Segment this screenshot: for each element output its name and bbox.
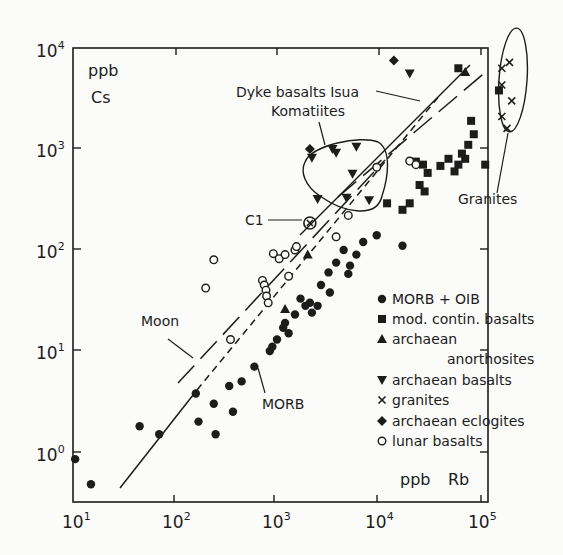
c1-label: C1 [245, 212, 264, 228]
legend-label: MORB + OIB [392, 291, 480, 307]
x-axis-unit: ppb [400, 470, 430, 489]
lunar-basalts-marker [264, 299, 272, 307]
lunar-basalts-marker [293, 243, 301, 251]
svg-text:102: 102 [162, 510, 191, 532]
mod-contin-basalts-marker [481, 161, 489, 169]
morb-oib-marker [296, 294, 304, 302]
legend-item: mod. contin. basalts [378, 311, 534, 327]
legend-item: archaean eclogites [377, 413, 525, 429]
svg-text:100: 100 [36, 443, 65, 465]
mod-contin-basalts-marker [399, 206, 407, 214]
legend-label: granites [392, 392, 449, 408]
legend-item: lunar basalts [378, 433, 482, 449]
archaean-anorthosites-marker [303, 250, 313, 259]
morb-oib-marker [135, 422, 143, 430]
legend-label: lunar basalts [392, 433, 482, 449]
morb-oib-marker [326, 288, 334, 296]
x-axis-element: Rb [448, 470, 469, 489]
mod-contin-basalts-marker [470, 130, 478, 138]
scatter-chart: 101 102 103 104 105 104 103 102 101 100 … [0, 0, 563, 555]
mod-contin-basalts-marker [467, 117, 475, 125]
lunar-basalts-marker [281, 251, 289, 259]
morb-oib-marker [291, 310, 299, 318]
svg-text:104: 104 [36, 39, 65, 61]
legend-marker-icon [377, 334, 387, 343]
morb-oib-marker [332, 258, 340, 266]
lunar-basalts-marker [285, 272, 293, 280]
morb-oib-marker [352, 250, 360, 258]
granites-marker [506, 59, 513, 66]
legend-marker-icon [377, 416, 387, 426]
lunar-basalts-marker [412, 161, 420, 169]
lunar-basalts-marker [332, 233, 340, 241]
lunar-basalts-marker [210, 256, 218, 264]
mod-contin-basalts-marker [421, 187, 429, 195]
morb-oib-marker [398, 242, 406, 250]
svg-text:104: 104 [365, 510, 394, 532]
legend-marker-icon [378, 295, 386, 303]
svg-text:103: 103 [262, 510, 291, 532]
morb-oib-marker [301, 302, 309, 310]
morb-oib-marker [225, 382, 233, 390]
lunar-basalts-marker [344, 212, 352, 220]
moon-label: Moon [141, 313, 179, 329]
mod-contin-basalts-marker [436, 162, 444, 170]
morb-oib-marker [237, 377, 245, 385]
mod-contin-basalts-marker [454, 64, 462, 72]
morb-oib-marker [359, 238, 367, 246]
leader-lines [168, 91, 508, 393]
svg-text:103: 103 [36, 139, 65, 161]
legend-label: archaean eclogites [392, 413, 525, 429]
svg-text:101: 101 [62, 510, 91, 532]
svg-text:101: 101 [36, 341, 65, 363]
archaean-eclogites-marker [389, 56, 399, 66]
legend-label: archaean [392, 331, 457, 347]
mod-contin-basalts-marker [461, 155, 469, 163]
archaean-basalts-marker [307, 154, 317, 163]
mod-contin-basalts-marker [383, 199, 391, 207]
legend-marker-icon [378, 315, 386, 323]
morb-oib-marker [317, 281, 325, 289]
morb-oib-marker [194, 417, 202, 425]
legend-item: MORB + OIB [378, 291, 480, 307]
moon-line [178, 160, 385, 383]
c1-marker [304, 217, 316, 229]
mod-contin-basalts-marker [454, 161, 462, 169]
morb-oib-marker [281, 319, 289, 327]
y-axis-element: Cs [91, 88, 111, 107]
legend-label: anorthosites [447, 351, 534, 367]
legend-marker-icon [379, 397, 386, 404]
legend-label: archaean basalts [392, 372, 512, 388]
granites-marker [508, 97, 515, 104]
morb-oib-marker [284, 329, 292, 337]
morb-label: MORB [262, 396, 304, 412]
morb-oib-marker [268, 343, 276, 351]
lunar-basalts-marker [202, 284, 210, 292]
archaean-basalts-marker [348, 170, 358, 179]
y-tick-labels: 104 103 102 101 100 [36, 39, 65, 465]
archaean-basalts-marker [313, 195, 323, 204]
morb-oib-marker [229, 408, 237, 416]
morb-oib-marker [250, 362, 258, 370]
archaean-basalts-marker [364, 196, 374, 205]
legend-marker-icon [378, 437, 386, 445]
archaean-anorthosites-marker [280, 304, 290, 313]
y-axis-unit: ppb [88, 61, 118, 80]
upper-dashed-line [338, 70, 488, 197]
morb-line-solid [120, 390, 197, 488]
granites-label: Granites [458, 191, 517, 207]
morb-oib-marker [71, 455, 79, 463]
morb-oib-marker [346, 261, 354, 269]
svg-text:102: 102 [36, 240, 65, 262]
legend: MORB + OIBmod. contin. basaltsarchaeanan… [377, 291, 534, 449]
svg-text:105: 105 [468, 510, 497, 532]
legend-item: anorthosites [447, 351, 534, 367]
komatiites-label: Komatiites [271, 103, 345, 119]
mod-contin-basalts-marker [444, 155, 452, 163]
archaean-basalts-marker [405, 69, 415, 78]
morb-oib-marker [87, 480, 95, 488]
morb-oib-marker [155, 430, 163, 438]
morb-oib-marker [210, 400, 218, 408]
morb-oib-marker [192, 389, 200, 397]
morb-oib-marker [211, 430, 219, 438]
